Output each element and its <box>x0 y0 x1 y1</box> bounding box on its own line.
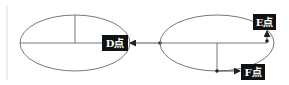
label-e-text: E点 <box>256 16 274 28</box>
label-d-text: D点 <box>106 37 125 49</box>
label-f: F点 <box>241 64 265 80</box>
label-d: D点 <box>102 35 128 51</box>
label-f-text: F点 <box>244 66 261 78</box>
ellipse-diagram: D点 E点 F点 <box>0 0 289 85</box>
label-e: E点 <box>253 14 276 30</box>
